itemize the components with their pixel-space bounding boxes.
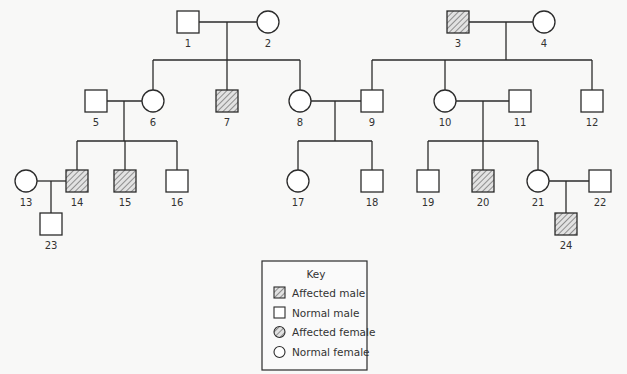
individual-24-affected-male: [555, 213, 577, 235]
individual-7-affected-male: [216, 90, 238, 112]
key-affected-female-icon: [274, 327, 285, 338]
pedigree-chart: 1 2 3 4 5 6 7 8 9 10 11 12 13 14 15 16 1…: [0, 0, 627, 374]
label-21: 21: [532, 197, 545, 208]
key-normal-female-icon: [274, 347, 285, 358]
individual-13-normal-female: [15, 170, 37, 192]
label-5: 5: [93, 117, 99, 128]
label-22: 22: [594, 197, 607, 208]
key-legend: Key Affected male Normal male Affected f…: [262, 261, 375, 370]
label-16: 16: [171, 197, 184, 208]
individual-23-normal-male: [40, 213, 62, 235]
individual-20-affected-male: [472, 170, 494, 192]
key-normal-male-icon: [274, 307, 285, 318]
individual-4-normal-female: [533, 11, 555, 33]
label-4: 4: [541, 38, 547, 49]
key-title: Key: [306, 268, 325, 280]
label-14: 14: [71, 197, 84, 208]
individual-6-normal-female: [142, 90, 164, 112]
individual-labels: 1 2 3 4 5 6 7 8 9 10 11 12 13 14 15 16 1…: [20, 38, 607, 251]
label-8: 8: [297, 117, 303, 128]
label-23: 23: [45, 240, 58, 251]
label-1: 1: [185, 38, 191, 49]
individual-21-normal-female: [527, 170, 549, 192]
individual-10-normal-female: [434, 90, 456, 112]
key-label-affected-male: Affected male: [292, 287, 365, 299]
individual-14-affected-male: [66, 170, 88, 192]
label-15: 15: [119, 197, 132, 208]
individual-12-normal-male: [581, 90, 603, 112]
label-18: 18: [366, 197, 379, 208]
key-label-affected-female: Affected female: [292, 326, 375, 338]
label-13: 13: [20, 197, 33, 208]
key-affected-male-icon: [274, 287, 285, 298]
individual-16-normal-male: [166, 170, 188, 192]
label-3: 3: [455, 38, 461, 49]
key-label-normal-female: Normal female: [292, 346, 370, 358]
individual-17-normal-female: [287, 170, 309, 192]
individual-2-normal-female: [257, 11, 279, 33]
individual-5-normal-male: [85, 90, 107, 112]
label-19: 19: [422, 197, 435, 208]
label-7: 7: [224, 117, 230, 128]
label-6: 6: [150, 117, 156, 128]
individual-15-affected-male: [114, 170, 136, 192]
label-17: 17: [292, 197, 305, 208]
individual-1-normal-male: [177, 11, 199, 33]
label-12: 12: [586, 117, 599, 128]
individual-8-normal-female: [289, 90, 311, 112]
key-label-normal-male: Normal male: [292, 307, 359, 319]
label-24: 24: [560, 240, 573, 251]
label-9: 9: [369, 117, 375, 128]
individual-11-normal-male: [509, 90, 531, 112]
individual-9-normal-male: [361, 90, 383, 112]
label-11: 11: [514, 117, 527, 128]
individual-22-normal-male: [589, 170, 611, 192]
individual-18-normal-male: [361, 170, 383, 192]
label-20: 20: [477, 197, 490, 208]
individual-3-affected-male: [447, 11, 469, 33]
label-2: 2: [265, 38, 271, 49]
individual-19-normal-male: [417, 170, 439, 192]
label-10: 10: [439, 117, 452, 128]
